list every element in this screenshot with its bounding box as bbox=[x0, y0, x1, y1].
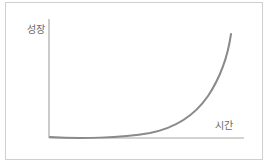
growth-curve bbox=[50, 34, 231, 138]
x-axis-label: 시간 bbox=[215, 121, 233, 131]
y-axis-label: 성장 bbox=[27, 25, 45, 35]
